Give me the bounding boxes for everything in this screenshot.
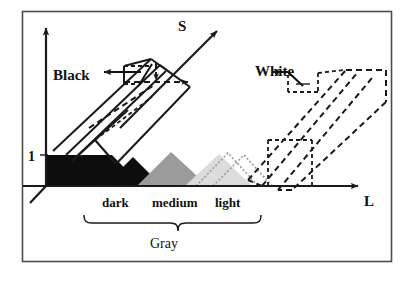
white-prism [248, 70, 386, 190]
tick-one-label: 1 [28, 149, 35, 164]
band-label-light: light [215, 195, 241, 210]
l-axis-label: L [364, 193, 374, 209]
white-label: White [255, 63, 295, 79]
band-label-medium: medium [152, 195, 198, 210]
band-fill-light [185, 154, 252, 186]
s-axis-line [120, 31, 217, 128]
gray-brace-path [84, 215, 261, 231]
gray-brace-label: Gray [150, 236, 178, 251]
band-label-dark: dark [102, 195, 130, 210]
figure-frame [23, 12, 392, 262]
s-axis-label: S [178, 18, 186, 34]
band-fills [46, 152, 272, 186]
black-label: Black [53, 67, 90, 83]
diagram-canvas: Black White S L 1 dark medium light Gray [0, 0, 418, 281]
figure-container: Black White S L 1 dark medium light Gray [0, 0, 418, 281]
s-axis-negative-stub [30, 186, 46, 203]
